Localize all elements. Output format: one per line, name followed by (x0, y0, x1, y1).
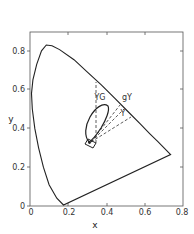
x-tick-label: 0.6 (139, 208, 152, 217)
x-tick-label: 0.8 (176, 208, 189, 217)
y-tick-label: 0.4 (12, 124, 25, 133)
y-tick-label: 0.8 (12, 47, 25, 56)
x-tick-label: 0.2 (63, 208, 76, 217)
region-label-gy: gY (122, 93, 132, 102)
y-tick-label: 0.2 (12, 163, 25, 172)
region-label-y: Y (120, 109, 126, 118)
x-axis-label: x (92, 220, 98, 230)
chromaticity-diagram: 0 0.2 0.4 0.6 0.8 0 0.2 0.4 0.6 0.8 x y … (0, 0, 194, 234)
x-tick-label: 0.4 (101, 208, 114, 217)
region-label-yg: YG (93, 93, 105, 102)
x-tick-label: 0 (28, 208, 33, 217)
y-tick-label: 0.6 (12, 85, 25, 94)
white-point (88, 141, 91, 144)
inner-gamut-loop (86, 105, 109, 142)
y-axis-label: y (8, 114, 14, 124)
y-ticks (27, 51, 183, 206)
plot-frame (30, 32, 183, 206)
y-tick-label: 0 (20, 202, 25, 211)
spectral-locus (32, 45, 171, 205)
x-ticks (68, 32, 145, 206)
source-rectangle (85, 139, 96, 148)
